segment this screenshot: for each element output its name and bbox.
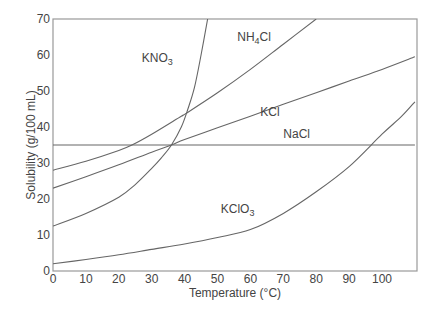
x-tick-label: 80 bbox=[310, 272, 324, 286]
x-tick-label: 30 bbox=[145, 272, 159, 286]
y-tick-label: 20 bbox=[37, 192, 51, 206]
y-tick-label: 10 bbox=[37, 228, 51, 242]
y-tick-label: 70 bbox=[37, 12, 51, 26]
y-tick-label: 30 bbox=[37, 156, 51, 170]
curve-kclo3 bbox=[53, 102, 415, 264]
x-tick-label: 60 bbox=[244, 272, 258, 286]
curve-nh4cl bbox=[53, 19, 316, 170]
x-tick-label: 0 bbox=[50, 272, 57, 286]
y-tick-label: 50 bbox=[37, 84, 51, 98]
x-tick-label: 90 bbox=[342, 272, 356, 286]
curves bbox=[53, 19, 415, 264]
curve-label-kno3: KNO3 bbox=[142, 51, 173, 67]
curve-label-nh4cl: NH4Cl bbox=[237, 30, 271, 46]
curve-labels: KNO3NH4ClKClNaClKClO3 bbox=[142, 30, 310, 219]
y-axis-ticks: 010203040506070 bbox=[37, 12, 51, 278]
curve-label-nacl: NaCl bbox=[283, 127, 310, 141]
x-tick-label: 40 bbox=[178, 272, 192, 286]
y-tick-label: 40 bbox=[37, 120, 51, 134]
x-axis-label: Temperature (°C) bbox=[189, 286, 281, 300]
y-tick-label: 60 bbox=[37, 48, 51, 62]
x-axis-ticks: 0102030405060708090100 bbox=[50, 272, 393, 286]
x-tick-label: 50 bbox=[211, 272, 225, 286]
curve-label-kcl: KCl bbox=[260, 105, 279, 119]
curve-kno3 bbox=[53, 19, 208, 226]
solubility-chart: KNO3NH4ClKClNaClKClO3 010203040506070 01… bbox=[0, 0, 439, 311]
y-axis-label: Solubility (g/100 mL) bbox=[24, 90, 38, 199]
curve-kcl bbox=[53, 57, 415, 188]
x-tick-label: 100 bbox=[372, 272, 392, 286]
x-tick-label: 10 bbox=[79, 272, 93, 286]
curve-label-kclo3: KClO3 bbox=[221, 202, 255, 218]
x-tick-label: 20 bbox=[112, 272, 126, 286]
x-tick-label: 70 bbox=[277, 272, 291, 286]
